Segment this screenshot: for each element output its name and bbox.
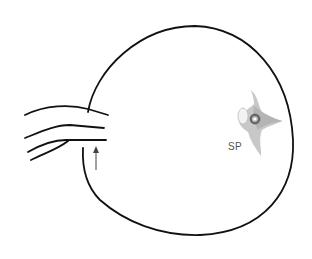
diagram-svg	[0, 0, 312, 259]
band-middle	[25, 125, 104, 138]
arrow-icon	[93, 146, 99, 170]
band-lower-inner	[31, 141, 68, 160]
sp-structure	[238, 90, 283, 156]
diagram-canvas: SP	[0, 0, 312, 259]
band-upper	[25, 106, 108, 115]
sp-label: SP	[228, 141, 242, 152]
